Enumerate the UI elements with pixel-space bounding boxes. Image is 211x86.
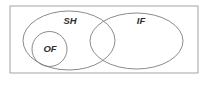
venn-diagram-container: SH IF OF [0,0,211,86]
set-label-if: IF [137,15,146,26]
venn-diagram-svg: SH IF OF [0,0,211,86]
universal-set-rectangle [10,6,198,73]
set-label-of: OF [43,43,56,54]
set-label-sh: SH [63,15,77,26]
